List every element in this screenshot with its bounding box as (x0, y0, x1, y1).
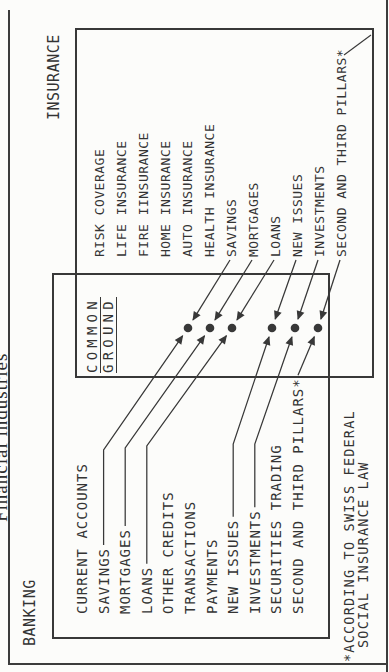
common-ground-dot (268, 324, 277, 333)
footnote-line2: SOCIAL INSURANCE LAW (356, 461, 370, 648)
insurance-connector-arrow (298, 260, 318, 319)
common-ground-dot (206, 324, 215, 333)
insurance-connector-arrow (193, 260, 230, 320)
banking-connector-arrow (125, 336, 204, 526)
banking-connector-arrow (233, 337, 269, 517)
rotated-figure: Financial industries BANKING INSURANCE C… (0, 0, 389, 672)
banking-connector-arrow (104, 336, 183, 545)
footnote-line1: *ACCORDING TO SWISS FEDERAL (342, 410, 356, 662)
banking-connector-arrow (298, 337, 314, 376)
common-ground-dot (314, 324, 323, 333)
insurance-connector-arrow (321, 260, 340, 319)
common-ground-dot (184, 324, 193, 333)
asterisk-leader-line (344, 35, 371, 55)
insurance-connector-arrow (275, 260, 296, 319)
insurance-connector-arrow (215, 260, 252, 320)
insurance-connector-arrow (237, 260, 274, 320)
figure-page: Financial industries BANKING INSURANCE C… (0, 0, 389, 672)
connector-arrows-layer (0, 0, 389, 672)
common-ground-dot (291, 324, 300, 333)
common-ground-dot (228, 324, 237, 333)
